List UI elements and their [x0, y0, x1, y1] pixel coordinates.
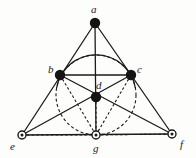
label-a: a: [91, 4, 97, 15]
label-e: e: [10, 141, 15, 152]
point-g-core: [95, 134, 98, 137]
label-b: b: [48, 64, 54, 75]
geometry-diagram: a b c d e g f: [0, 0, 196, 158]
point-f-core: [171, 133, 174, 136]
point-d: [91, 92, 101, 102]
point-c: [126, 70, 136, 80]
point-e-core: [21, 134, 24, 137]
point-b: [55, 70, 65, 80]
label-f: f: [180, 139, 183, 150]
point-a: [90, 18, 100, 28]
label-g: g: [93, 143, 99, 154]
label-d: d: [96, 80, 102, 91]
label-c: c: [137, 64, 142, 75]
